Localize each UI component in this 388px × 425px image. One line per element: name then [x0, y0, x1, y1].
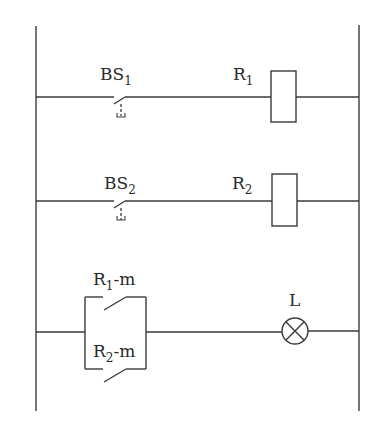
- push-button-switch-icon: [114, 201, 125, 220]
- coil-label-r2: R2: [232, 173, 252, 197]
- contact-label-r2-m: R2-m: [93, 341, 135, 365]
- relay-coil-icon: [272, 174, 297, 226]
- contact-label-bs1: BS1: [100, 64, 132, 88]
- lamp-label: L: [289, 290, 300, 310]
- lamp-icon: [282, 318, 308, 344]
- contact-label-bs2: BS2: [104, 173, 136, 197]
- relay-coil-icon: [271, 71, 296, 122]
- contact-r1-m-icon: [85, 297, 146, 310]
- rung-1: BS1 R1: [36, 64, 359, 122]
- ladder-diagram: BS1 R1 BS2 R2: [0, 0, 388, 425]
- rung-2: BS2 R2: [36, 173, 359, 226]
- rung-3: R1-m R2-m L: [36, 269, 359, 382]
- contact-r2-m-icon: [85, 369, 146, 382]
- push-button-switch-icon: [114, 97, 125, 117]
- contact-label-r1-m: R1-m: [93, 269, 135, 293]
- coil-label-r1: R1: [233, 64, 253, 88]
